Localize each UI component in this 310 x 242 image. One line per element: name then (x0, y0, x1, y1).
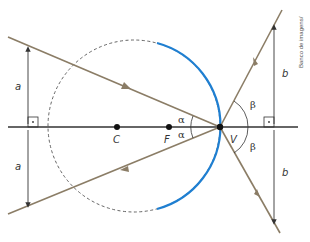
ray-arrow-upper-left (121, 82, 131, 89)
incident-ray-upper (8, 37, 220, 127)
label-alpha-upper: α (178, 114, 185, 125)
label-focus: F (164, 134, 170, 145)
mirror-diagram: C F V α α β β a a b b Banco de imagens/ (0, 0, 310, 242)
label-center: C (113, 134, 120, 145)
label-beta-lower: β (250, 141, 256, 152)
label-b-lower: b (282, 167, 288, 178)
image-credit: Banco de imagens/ (298, 16, 304, 68)
label-a-lower: a (15, 161, 21, 172)
label-a-upper: a (15, 81, 21, 92)
label-vertex: V (230, 134, 238, 145)
label-alpha-lower: α (178, 129, 185, 140)
label-b-upper: b (282, 68, 288, 79)
label-beta-upper: β (250, 99, 256, 110)
vertex-point (217, 124, 223, 130)
focus-point (166, 124, 172, 130)
beta-arc-upper (234, 101, 248, 127)
center-point (114, 124, 120, 130)
